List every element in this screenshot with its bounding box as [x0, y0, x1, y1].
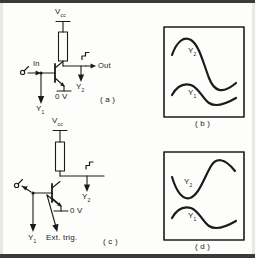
scope-d-trace-y1: [172, 207, 236, 228]
circuit-c-y2-label: Y2: [82, 193, 91, 204]
circuit-c-input-probe-stem: [18, 180, 23, 185]
scope-d-screen-frame: [164, 152, 244, 240]
circuit-a-output-arrow: [91, 64, 96, 69]
scope-d-trace-y2: [172, 160, 235, 198]
scope-b-trace-y1: [172, 84, 236, 105]
scope-d-trace-y1-label: Y1: [188, 212, 197, 223]
circuit-c-ground-label: 0 V: [70, 207, 83, 215]
circuit-a-input-arrow: [36, 71, 41, 76]
circuit-c-ext-trigger-label: Ext. trig.: [46, 234, 77, 242]
panel-a-caption: ( a ): [100, 96, 115, 104]
circuit-a-collector-resistor: [59, 32, 68, 61]
panel-b-caption: ( b ): [195, 120, 210, 128]
circuit-c-output-waveform-icon: [86, 162, 93, 169]
panel-c-caption: ( c ): [103, 238, 118, 246]
circuit-c-collector-resistor: [56, 142, 65, 171]
circuit-c-y2-arrow: [84, 185, 90, 193]
circuit-c-y1-label: Y1: [28, 234, 37, 245]
circuit-a-y1-label: Y1: [36, 105, 45, 116]
circuit-a-y2-arrow: [78, 75, 84, 83]
circuit-a-input-probe-stem: [24, 67, 29, 72]
circuit-c-collector-lead: [52, 182, 60, 189]
circuit-a-y2-label: Y2: [76, 83, 85, 94]
scope-b-group: [164, 27, 244, 117]
panel-d-caption: ( d ): [195, 243, 210, 251]
circuit-c-input-probe-ring: [15, 183, 19, 187]
scope-d-trace-y2-label: Y2: [184, 178, 193, 189]
figure-vector-layer: [0, 0, 255, 258]
circuit-c-ext-trig-arrow: [52, 224, 58, 232]
circuit-c-vcc-label: Vcc: [52, 117, 63, 128]
scope-d-group: [164, 152, 244, 240]
circuit-a-input-probe-ring: [21, 70, 25, 74]
circuit-a-collector-lead: [55, 62, 63, 69]
circuit-a-vcc-label: Vcc: [55, 8, 66, 19]
circuit-a-output-waveform-icon: [82, 53, 89, 60]
scope-b-trace-y2: [172, 39, 236, 91]
circuit-a-y1-arrow: [38, 96, 44, 104]
circuit-a-output-label: Out: [98, 62, 111, 70]
figure-root: Vcc In Out 0 V Y1 Y2 ( a ) Vcc 0 V Y1 Y2…: [0, 0, 255, 258]
circuit-c-group: [15, 131, 105, 233]
circuit-a-input-label: In: [33, 60, 40, 68]
circuit-a-ground-label: 0 V: [55, 93, 68, 101]
scope-b-screen-frame: [164, 27, 244, 117]
scope-b-trace-y2-label: Y2: [188, 47, 197, 58]
circuit-c-y1-arrow: [30, 224, 36, 232]
scope-b-trace-y1-label: Y1: [188, 89, 197, 100]
